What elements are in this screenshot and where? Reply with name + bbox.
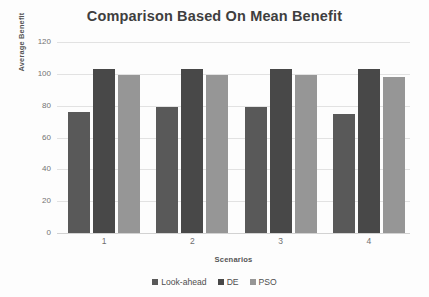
y-tick-label: 40 [11,165,51,173]
bar-group [333,42,405,233]
chart-legend: Look-aheadDEPSO [0,278,429,287]
gridline-0 [57,233,410,234]
legend-swatch-icon [152,279,158,285]
legend-swatch-icon [250,279,256,285]
legend-label: DE [227,278,239,287]
x-tick-label: 4 [333,236,405,246]
bar-pso[interactable] [295,75,317,233]
x-tick-label: 1 [68,236,140,246]
bar-group [156,42,228,233]
legend-entry[interactable]: Look-ahead [152,278,206,287]
bar-de[interactable] [270,69,292,233]
legend-entry[interactable]: DE [218,278,239,287]
bar-look-ahead[interactable] [245,107,267,233]
bar-group [68,42,140,233]
y-tick-label: 100 [11,70,51,78]
bar-de[interactable] [181,69,203,233]
bar-group [245,42,317,233]
y-tick-label: 60 [11,134,51,142]
bar-de[interactable] [93,69,115,233]
x-axis-tick-labels: 1234 [57,236,410,250]
y-tick-label: 0 [11,229,51,237]
x-tick-label: 3 [245,236,317,246]
x-axis-title: Scenarios [57,255,410,264]
y-tick-label: 80 [11,102,51,110]
chart-title: Comparison Based On Mean Benefit [0,8,429,24]
plot-area [57,42,410,233]
y-axis-tick-labels: 020406080100120 [9,42,51,233]
bar-look-ahead[interactable] [68,112,90,233]
legend-label: PSO [259,278,277,287]
bar-pso[interactable] [118,75,140,233]
bar-look-ahead[interactable] [156,107,178,233]
legend-label: Look-ahead [161,278,206,287]
legend-swatch-icon [218,279,224,285]
bar-chart-figure: Comparison Based On Mean Benefit Average… [0,0,429,297]
x-tick-label: 2 [156,236,228,246]
legend-entry[interactable]: PSO [250,278,277,287]
y-tick-label: 20 [11,197,51,205]
bar-pso[interactable] [383,77,405,233]
bar-pso[interactable] [206,75,228,233]
bar-de[interactable] [358,69,380,233]
bar-look-ahead[interactable] [333,114,355,233]
y-tick-label: 120 [11,38,51,46]
